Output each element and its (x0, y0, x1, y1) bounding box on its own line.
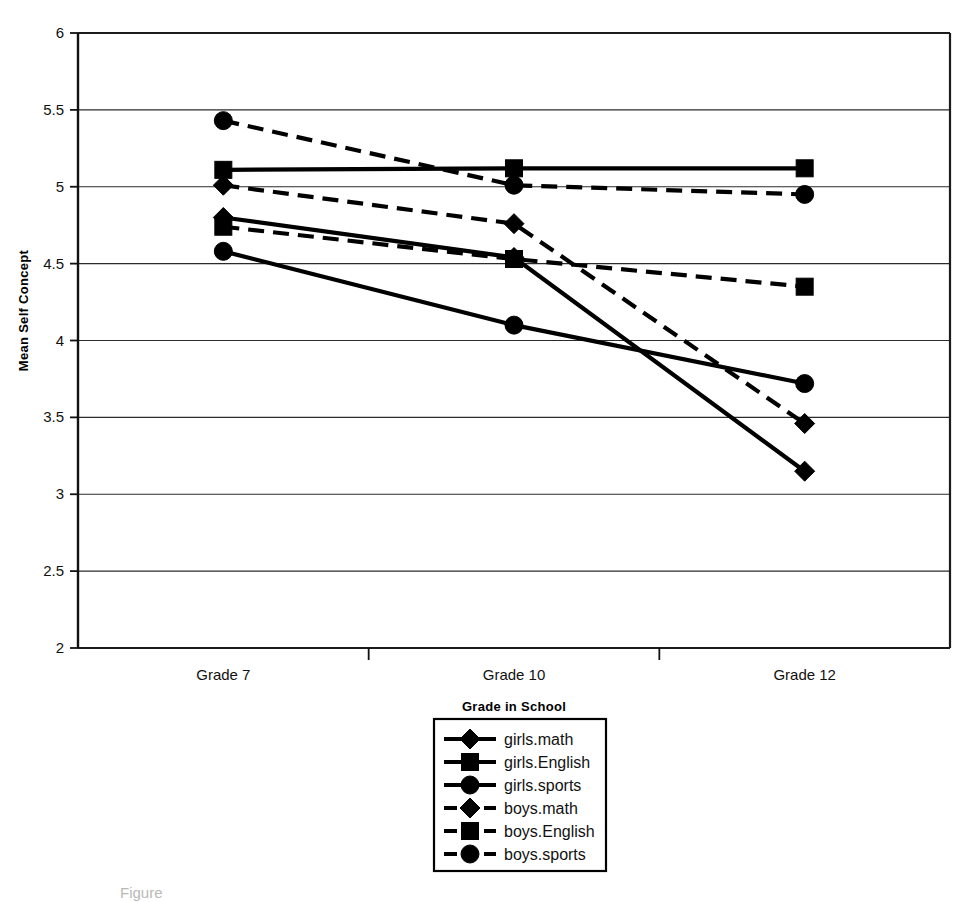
y-tick-label-6: 6 (56, 24, 64, 41)
x-tick-label-grade-12: Grade 12 (773, 666, 836, 683)
legend-item-boys-english[interactable]: boys.English (444, 823, 595, 841)
legend-item-girls-sports[interactable]: girls.sports (444, 776, 581, 794)
legend-item-boys-sports[interactable]: boys.sports (444, 845, 586, 863)
data-point-boys-sports-2 (796, 185, 814, 203)
legend-label-girls-math: girls.math (504, 731, 573, 748)
y-tick-label-5.5: 5.5 (43, 101, 64, 118)
figure-container: 22.533.544.555.56Grade 7Grade 10Grade 12… (0, 0, 973, 902)
legend-item-girls-english[interactable]: girls.English (444, 754, 590, 772)
data-point-boys-english-1 (506, 251, 523, 268)
data-point-boys-english-2 (796, 278, 813, 295)
data-point-girls-english-2 (796, 160, 813, 177)
x-tick-label-grade-10: Grade 10 (483, 666, 546, 683)
legend-marker-girls-sports (461, 776, 479, 794)
line-chart: 22.533.544.555.56Grade 7Grade 10Grade 12… (0, 0, 973, 902)
y-tick-label-5: 5 (56, 178, 64, 195)
legend-label-girls-english: girls.English (504, 754, 590, 771)
y-tick-label-3: 3 (56, 485, 64, 502)
legend-label-boys-sports: boys.sports (504, 846, 586, 863)
x-tick-label-grade-7: Grade 7 (196, 666, 250, 683)
data-point-boys-sports-0 (214, 112, 232, 130)
y-tick-label-2.5: 2.5 (43, 562, 64, 579)
figure-caption: Figure (120, 884, 163, 901)
legend-marker-boys-english (462, 823, 479, 840)
y-tick-label-2: 2 (56, 639, 64, 656)
data-point-girls-sports-2 (796, 375, 814, 393)
data-point-boys-english-0 (215, 218, 232, 235)
legend-marker-boys-sports (461, 845, 479, 863)
legend-marker-girls-english (462, 754, 479, 771)
legend-label-boys-math: boys.math (504, 800, 578, 817)
x-axis-title: Grade in School (462, 699, 566, 714)
data-point-girls-sports-0 (214, 242, 232, 260)
legend-label-girls-sports: girls.sports (504, 777, 581, 794)
y-tick-label-3.5: 3.5 (43, 408, 64, 425)
chart-legend: girls.mathgirls.Englishgirls.sportsboys.… (434, 719, 606, 871)
y-tick-label-4.5: 4.5 (43, 255, 64, 272)
data-point-girls-english-1 (506, 160, 523, 177)
y-tick-label-4: 4 (56, 332, 64, 349)
data-point-girls-sports-1 (505, 316, 523, 334)
y-axis-title: Mean Self Concept (16, 249, 31, 371)
data-point-boys-sports-1 (505, 176, 523, 194)
legend-label-boys-english: boys.English (504, 823, 595, 840)
